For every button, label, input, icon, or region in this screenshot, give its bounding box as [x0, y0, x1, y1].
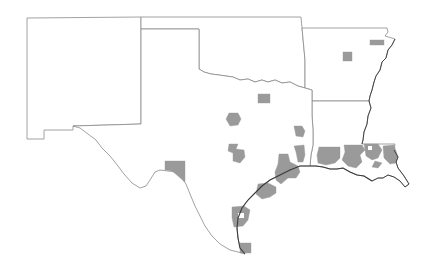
state-new-mexico — [27, 17, 141, 139]
county-central-arkansas — [343, 52, 352, 61]
state-louisiana — [310, 101, 409, 187]
county-south-texas — [240, 243, 251, 253]
map-canvas — [0, 0, 430, 269]
county-hole-2 — [368, 146, 372, 150]
county-north-texas-1 — [258, 94, 270, 103]
county-ne-arkansas — [370, 40, 384, 45]
county-coastal-texas-1 — [256, 183, 276, 199]
county-big-bend — [165, 161, 185, 182]
